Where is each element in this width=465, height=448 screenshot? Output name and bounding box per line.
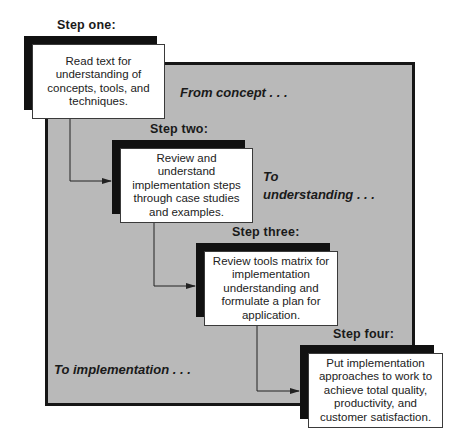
- step-three-text-line: Review tools matrix for: [213, 255, 329, 269]
- step-two-text-line: and examples.: [127, 206, 246, 220]
- step-three-text-line: implementation: [213, 268, 329, 282]
- step-four-text-line: achieve total quality,: [319, 384, 432, 398]
- step-one-text-line: techniques.: [47, 95, 149, 109]
- phase-concept-label: From concept . . .: [180, 84, 288, 102]
- step-one-card: Read text for understanding of concepts,…: [32, 44, 165, 119]
- step-one-label: Step one:: [57, 18, 116, 32]
- step-one-text-line: understanding of: [47, 68, 149, 82]
- step-four-text-line: productivity, and: [319, 397, 432, 411]
- step-two-card: Review and understand implementation ste…: [120, 148, 253, 223]
- step-two-text-line: Review and understand: [127, 152, 246, 179]
- phase-implementation-label: To implementation . . .: [54, 361, 191, 379]
- step-four-text-line: Put implementation: [319, 357, 432, 371]
- phase-understanding-line2: understanding . . .: [263, 186, 375, 204]
- step-one-text-line: Read text for: [47, 55, 149, 69]
- step-three-card: Review tools matrix for implementation u…: [204, 251, 338, 326]
- step-two-label: Step two:: [150, 122, 208, 136]
- step-two-text-line: through case studies: [127, 192, 246, 206]
- step-three-text-line: formulate a plan for: [213, 295, 329, 309]
- step-two-text-line: implementation steps: [127, 179, 246, 193]
- phase-understanding-label: To understanding . . .: [263, 168, 375, 204]
- step-three-text-line: understanding and: [213, 282, 329, 296]
- step-four-label: Step four:: [333, 327, 394, 341]
- phase-understanding-line1: To: [263, 168, 375, 186]
- step-four-text-line: customer satisfaction.: [319, 411, 432, 425]
- step-four-card: Put implementation approaches to work to…: [308, 353, 443, 428]
- step-one-text-line: concepts, tools, and: [47, 82, 149, 96]
- step-four-text-line: approaches to work to: [319, 370, 432, 384]
- step-three-text-line: application.: [213, 309, 329, 323]
- step-three-label: Step three:: [232, 225, 300, 239]
